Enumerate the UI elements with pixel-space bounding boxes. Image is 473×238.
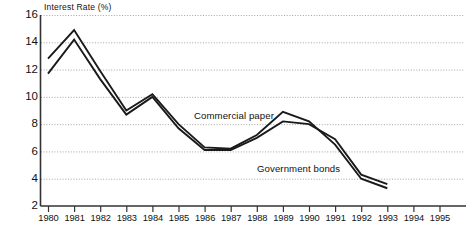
interest-rate-line-chart: Interest Rate (%) 16 14 12 10 8 6 4 2 Co…	[0, 0, 473, 238]
x-tick-label-1995: 1995	[423, 213, 457, 223]
series-label-commercial-paper: Commercial paper	[194, 110, 274, 121]
series-label-government-bonds: Government bonds	[257, 163, 340, 174]
